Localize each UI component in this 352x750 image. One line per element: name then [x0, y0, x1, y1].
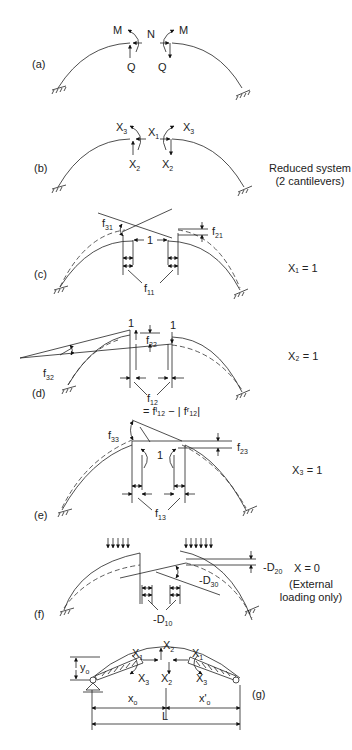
- panel-e-drawing: [58, 420, 257, 517]
- f12-equation: = fˡ₁₂ − | fʳ₁₂|: [143, 406, 200, 417]
- yo-label: yo: [80, 662, 89, 675]
- x3-label-left: X3: [116, 122, 127, 135]
- condition-x2: X₂ = 1: [288, 350, 318, 363]
- unit-moment-label: 1: [157, 450, 163, 461]
- f22-label: f22: [146, 335, 157, 348]
- normal-force-label: N: [147, 29, 155, 40]
- panel-f-drawing: [60, 538, 259, 620]
- condition-x1: X₁ = 1: [288, 262, 318, 275]
- shear-label-right: Q: [158, 62, 167, 73]
- x3-label-right: X3: [183, 122, 194, 135]
- f11-label: f11: [144, 283, 154, 296]
- panel-label-c: (c): [34, 268, 47, 280]
- moment-label-left: M: [113, 25, 122, 36]
- moment-label-right: M: [179, 25, 188, 36]
- g-x1-right: X1: [192, 648, 203, 661]
- g-x1-left: X1: [132, 648, 143, 661]
- d10-label: -D10: [153, 614, 172, 627]
- panel-g-drawing: [70, 647, 240, 731]
- unit-force-down: 1: [170, 320, 176, 331]
- condition-x0: X = 0: [294, 562, 320, 575]
- panel-label-b: (b): [34, 162, 47, 174]
- external-loading-note: (External loading only): [275, 578, 347, 604]
- d30-label: -D30: [199, 575, 218, 588]
- x2-label-right: X2: [162, 159, 173, 172]
- panel-d-drawing: [20, 325, 250, 400]
- f31-label: f31: [102, 218, 113, 231]
- reduced-system-note: Reduced system (2 cantilevers): [268, 162, 352, 188]
- xpo-dimension: x'o: [199, 693, 211, 706]
- g-x3-right: X3: [196, 673, 207, 686]
- structural-diagram: (a) M N M Q Q (b) X3 X1 X3 X2 X2 Reduced…: [0, 0, 352, 750]
- panel-label-a: (a): [32, 58, 45, 70]
- panel-label-f: (f): [34, 608, 44, 620]
- d20-label: -D20: [263, 562, 282, 575]
- x1-label: X1: [148, 127, 159, 140]
- f13-label: f13: [155, 508, 166, 521]
- panel-label-d: (d): [32, 387, 45, 399]
- condition-x3: X₃ = 1: [292, 464, 322, 477]
- unit-length-label: 1: [147, 235, 153, 246]
- f23-label: f23: [237, 442, 248, 455]
- xo-dimension: xo: [128, 693, 137, 706]
- unit-force-up: 1: [128, 318, 134, 329]
- x2-label-left: X2: [129, 159, 140, 172]
- panel-a-drawing: [52, 30, 250, 100]
- panel-label-g: (g): [252, 688, 265, 700]
- g-x2-bottom: X2: [161, 673, 172, 686]
- f33-label: f33: [108, 430, 119, 443]
- f32-label: f32: [43, 368, 54, 381]
- f21-label: f21: [212, 226, 223, 239]
- span-length-label: L: [162, 711, 168, 722]
- g-x2-top: X2: [163, 640, 174, 653]
- panel-label-e: (e): [34, 509, 47, 521]
- g-x3-left: X3: [138, 673, 149, 686]
- shear-label-left: Q: [127, 62, 136, 73]
